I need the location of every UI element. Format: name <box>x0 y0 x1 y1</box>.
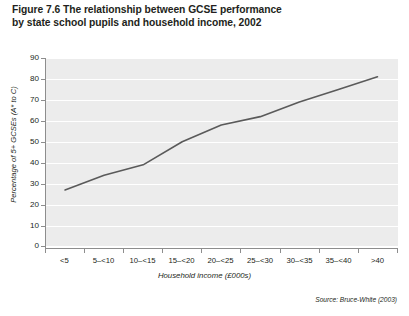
x-tick-label-3: 15–<20 <box>169 256 195 265</box>
x-tick-mark-6 <box>280 248 281 253</box>
gridline-30 <box>46 184 398 185</box>
y-tick-label-10: 10 <box>13 222 39 230</box>
y-tick-mark-50 <box>41 142 45 143</box>
y-axis-title: Percentage of 5+ GCSEs (A* to C) <box>9 70 18 220</box>
figure-container: Figure 7.6 The relationship between GCSE… <box>0 0 409 316</box>
x-tick-mark-1 <box>84 248 85 253</box>
x-tick-label-6: 30–<35 <box>287 256 313 265</box>
x-tick-mark-5 <box>240 248 241 253</box>
y-tick-mark-40 <box>41 163 45 164</box>
gridline-70 <box>46 100 398 101</box>
y-tick-mark-70 <box>41 100 45 101</box>
figure-title-line-2: by state school pupils and household inc… <box>12 16 352 29</box>
x-axis-title: Household income (£000s) <box>0 271 409 280</box>
y-tick-mark-10 <box>41 226 45 227</box>
x-tick-label-2: 10–<15 <box>130 256 156 265</box>
source-note: Source: Bruce-White (2003) <box>315 296 397 303</box>
x-tick-mark-8 <box>358 248 359 253</box>
y-tick-mark-20 <box>41 205 45 206</box>
x-tick-label-7: 35–<40 <box>326 256 352 265</box>
y-tick-label-0: 0 <box>13 242 39 250</box>
figure-title: Figure 7.6 The relationship between GCSE… <box>12 3 352 29</box>
plot-area <box>46 58 398 247</box>
x-tick-mark-9 <box>397 248 398 253</box>
x-tick-mark-0 <box>45 248 46 253</box>
gridline-40 <box>46 163 398 164</box>
x-tick-mark-7 <box>319 248 320 253</box>
y-tick-mark-80 <box>41 79 45 80</box>
x-tick-label-4: 20–<25 <box>208 256 234 265</box>
y-tick-mark-30 <box>41 184 45 185</box>
x-tick-mark-4 <box>201 248 202 253</box>
gridline-20 <box>46 205 398 206</box>
gridline-60 <box>46 121 398 122</box>
gridline-80 <box>46 79 398 80</box>
gridline-50 <box>46 142 398 143</box>
x-tick-label-0: <5 <box>60 256 69 265</box>
x-tick-label-8: >40 <box>371 256 384 265</box>
y-axis-line <box>45 58 46 248</box>
gridline-10 <box>46 226 398 227</box>
x-tick-mark-2 <box>123 248 124 253</box>
x-tick-mark-3 <box>162 248 163 253</box>
x-tick-label-1: 5–<10 <box>93 256 115 265</box>
gridline-90 <box>46 58 398 59</box>
y-tick-label-90: 90 <box>13 54 39 62</box>
y-tick-mark-90 <box>41 58 45 59</box>
y-tick-mark-60 <box>41 121 45 122</box>
x-axis-line <box>45 248 398 249</box>
x-tick-label-5: 25–<30 <box>247 256 273 265</box>
figure-title-line-1: Figure 7.6 The relationship between GCSE… <box>12 3 352 16</box>
